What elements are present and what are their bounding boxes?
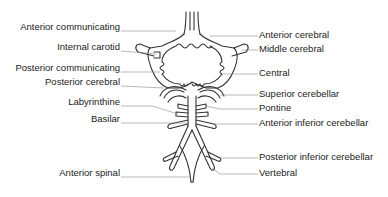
superior-cerebellar-left: [168, 96, 186, 102]
label-middle-cerebral: Middle cerebral: [259, 43, 324, 54]
circle-inner-perforators: [160, 44, 224, 86]
internal-carotid-left: [136, 44, 154, 56]
superior-cerebellar-right: [198, 96, 216, 102]
anterior-cerebral-right-stem: [198, 12, 200, 34]
pontine-right-1: [196, 104, 206, 110]
label-central: Central: [259, 67, 290, 78]
label-anterior-communicating: Anterior communicating: [20, 21, 120, 32]
label-labyrinthine: Labyrinthine: [68, 96, 120, 107]
pontine-left-1: [178, 104, 188, 110]
leader-lines: [121, 31, 258, 177]
circle-outer: [148, 34, 237, 88]
pontine-right-2: [196, 112, 208, 117]
anterior-cerebral-left-stem: [184, 12, 186, 34]
label-vertebral: Vertebral: [259, 167, 297, 178]
label-basilar: Basilar: [91, 113, 120, 124]
label-posterior-cerebral: Posterior cerebral: [45, 76, 120, 87]
label-anterior-cerebral: Anterior cerebral: [259, 29, 329, 40]
label-pontine: Pontine: [259, 102, 291, 113]
labyrinthine-left: [176, 112, 188, 117]
label-superior-cerebellar: Superior cerebellar: [259, 88, 339, 99]
arterial-diagram: Anterior communicating Internal carotid …: [0, 0, 388, 197]
label-posterior-inferior-cerebellar: Posterior inferior cerebellar: [259, 151, 373, 162]
aica-left: [168, 120, 188, 129]
label-internal-carotid: Internal carotid: [57, 41, 120, 52]
label-posterior-communicating: Posterior communicating: [15, 62, 120, 73]
label-anterior-inferior-cerebellar: Anterior inferior cerebellar: [259, 117, 368, 128]
label-anterior-spinal: Anterior spinal: [59, 167, 120, 178]
